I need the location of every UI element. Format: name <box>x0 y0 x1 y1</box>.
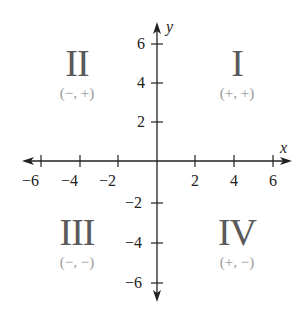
y-tick-label: −6 <box>125 275 142 291</box>
quadrant-signs: (+, +) <box>192 84 282 102</box>
y-tick-label: 2 <box>137 114 145 130</box>
x-tick-label: 6 <box>269 173 277 189</box>
coordinate-plane: x y −6 −4 −2 2 4 6 6 4 2 −2 −4 −6 II (−,… <box>0 0 308 312</box>
x-tick-label: −6 <box>22 173 39 189</box>
y-tick-label: 6 <box>137 36 145 52</box>
quadrant-ii: II (−, +) <box>32 46 122 102</box>
y-tick-label: −2 <box>125 195 142 211</box>
y-axis-label: y <box>166 19 173 35</box>
x-tick-label: −2 <box>99 173 116 189</box>
x-tick-label: 2 <box>191 173 199 189</box>
quadrant-signs: (+, −) <box>192 253 282 271</box>
y-tick-label: 4 <box>137 75 145 91</box>
y-tick-label: −4 <box>125 235 142 251</box>
x-axis-label: x <box>280 140 287 156</box>
quadrant-numeral: I <box>192 46 282 80</box>
quadrant-i: I (+, +) <box>192 46 282 102</box>
quadrant-signs: (−, +) <box>32 84 122 102</box>
x-tick-label: 4 <box>230 173 238 189</box>
quadrant-numeral: II <box>32 46 122 80</box>
quadrant-numeral: III <box>32 215 122 249</box>
y-axis <box>151 22 163 302</box>
quadrant-numeral: IV <box>192 215 282 249</box>
quadrant-iv: IV (+, −) <box>192 215 282 271</box>
x-tick-label: −4 <box>61 173 78 189</box>
quadrant-signs: (−, −) <box>32 253 122 271</box>
quadrant-iii: III (−, −) <box>32 215 122 271</box>
